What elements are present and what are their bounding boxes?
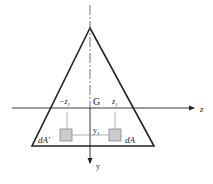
centroid-label: G — [93, 96, 100, 107]
area-element-left — [60, 129, 72, 141]
y-axis-label: y — [96, 162, 100, 171]
area-element-right — [109, 129, 121, 141]
z-axis-label: z — [199, 104, 204, 114]
dA-right-label: dA — [125, 135, 136, 145]
neg-z1-label: −z1 — [59, 97, 70, 107]
pos-z1-label: z1 — [111, 97, 118, 107]
y1-label: y1 — [93, 126, 100, 136]
dA-left-label: dA' — [38, 135, 51, 145]
triangle-diagram: G z y −z1 z1 y1 dA' dA — [0, 0, 213, 184]
